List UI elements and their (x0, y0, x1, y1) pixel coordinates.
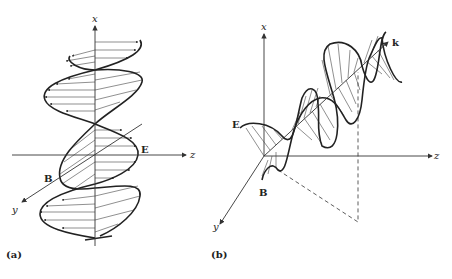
e-label-b: E (232, 119, 240, 130)
caption-a: (a) (6, 249, 22, 260)
em-wave-figure: x z y E B (a) (0, 0, 452, 279)
e-label-a: E (141, 144, 149, 155)
e-wave-curve-b (240, 32, 386, 148)
caption-b: (b) (211, 249, 227, 260)
b-label-b: B (259, 187, 267, 198)
y-axis-label-b: y (212, 221, 219, 232)
z-axis-label-b: z (433, 150, 440, 161)
x-axis-label-a: x (92, 13, 98, 24)
y-axis-label-a: y (11, 204, 18, 215)
b-wave-curve-b (262, 38, 402, 180)
k-label-b: k (392, 37, 400, 48)
panel-b: x z y k E B (b) (211, 21, 440, 260)
y-axis-b (220, 156, 264, 224)
b-label-a: B (44, 173, 52, 184)
x-axis-label-b: x (261, 21, 267, 32)
z-axis-label-a: z (189, 149, 196, 160)
panel-a: x z y E B (a) (6, 13, 196, 260)
